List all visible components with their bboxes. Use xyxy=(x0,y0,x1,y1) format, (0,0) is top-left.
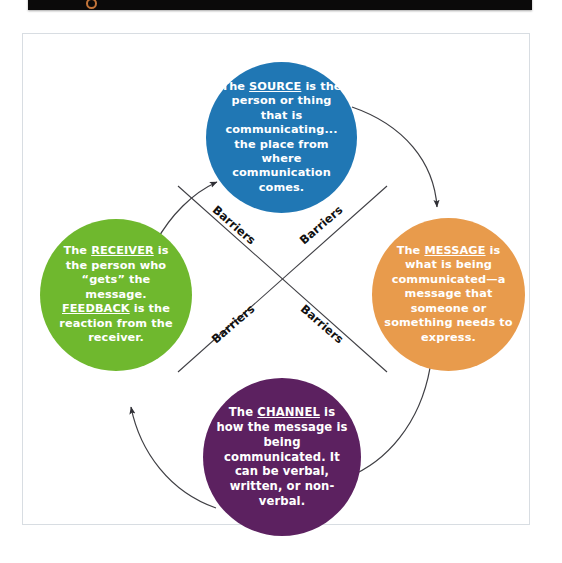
node-receiver[interactable]: The RECEIVER is the person who “gets” th… xyxy=(40,219,192,371)
node-message-text: The MESSAGE is what is being communicate… xyxy=(372,244,525,345)
node-message[interactable]: The MESSAGE is what is being communicate… xyxy=(372,218,525,371)
node-channel-prefix: The xyxy=(229,405,257,419)
node-message-term: MESSAGE xyxy=(424,244,485,257)
barrier-diagonal-lines xyxy=(178,186,387,372)
node-message-body: is what is being communicated—a message … xyxy=(384,244,512,344)
node-source-text: The SOURCE is the person or thing that i… xyxy=(206,80,357,196)
node-channel-text: The CHANNEL is how the message is being … xyxy=(203,405,361,509)
communication-model-diagram: The SOURCE is the person or thing that i… xyxy=(0,0,562,563)
node-receiver-prefix: The xyxy=(63,244,91,257)
node-receiver-term: RECEIVER xyxy=(91,244,154,257)
node-source-term: SOURCE xyxy=(249,80,301,93)
node-source-body: is the person or thing that is communica… xyxy=(225,80,341,194)
node-receiver-term-2: FEEDBACK xyxy=(62,302,130,315)
node-message-prefix: The xyxy=(397,244,425,257)
node-source[interactable]: The SOURCE is the person or thing that i… xyxy=(206,62,357,213)
node-source-prefix: The xyxy=(221,80,249,93)
node-channel[interactable]: The CHANNEL is how the message is being … xyxy=(203,378,361,536)
node-channel-body: is how the message is being communicated… xyxy=(216,405,347,508)
node-receiver-text: The RECEIVER is the person who “gets” th… xyxy=(40,244,192,345)
arrow-source-to-message xyxy=(352,107,437,207)
node-channel-term: CHANNEL xyxy=(257,405,320,419)
